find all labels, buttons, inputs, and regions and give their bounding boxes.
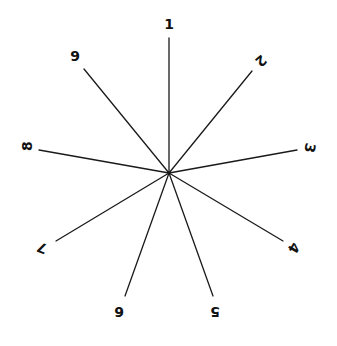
spoke-label-8: 8 xyxy=(19,141,35,151)
spoke-label-6: 6 xyxy=(114,304,124,320)
spoke-line-2 xyxy=(169,71,252,173)
spoke-diagram-svg: 123456789 xyxy=(0,0,337,346)
spoke-label-4: 4 xyxy=(285,240,304,257)
spokes-group xyxy=(39,38,297,296)
center-hub xyxy=(167,171,171,175)
spoke-line-7 xyxy=(56,173,169,241)
spoke-line-3 xyxy=(169,150,297,173)
spoke-line-9 xyxy=(84,69,169,173)
spoke-label-5: 5 xyxy=(210,304,220,320)
spoke-line-4 xyxy=(169,173,283,241)
spoke-line-6 xyxy=(125,173,169,296)
spoke-line-8 xyxy=(39,150,169,173)
spoke-label-2: 2 xyxy=(252,52,270,71)
spoke-label-3: 3 xyxy=(301,142,318,154)
spoke-label-9: 9 xyxy=(70,48,80,64)
spoke-label-7: 7 xyxy=(35,239,50,257)
spoke-diagram: 123456789 xyxy=(0,0,337,346)
spoke-line-5 xyxy=(169,173,213,296)
spoke-label-1: 1 xyxy=(164,16,174,32)
